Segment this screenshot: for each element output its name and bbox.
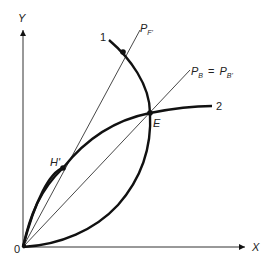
curve-2-path [23,106,212,247]
ray-pb-label: PB=PB' [191,65,233,79]
origin-label: 0 [14,243,20,255]
y-axis-label: Y [18,12,26,24]
ray-pf-label: PF' [140,22,154,36]
point-e-marker [147,110,153,116]
edgeworth-box-diagram: Y X 0 1 2 PF' PB=PB' E H' [0,0,276,262]
curve-1-label: 1 [100,31,106,43]
point-top-marker [120,49,126,55]
origin-marker [22,244,26,248]
curve-2-label: 2 [216,100,222,112]
point-h-label: H' [50,156,61,168]
ray-pf-line [23,30,140,247]
ray-pb-line [23,70,190,247]
point-h-marker [60,165,66,171]
x-axis-label: X [251,241,260,253]
point-e-label: E [153,117,161,129]
